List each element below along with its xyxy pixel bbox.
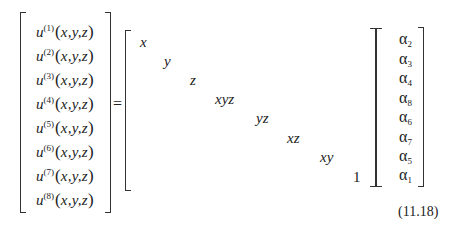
u-symbol: u	[36, 96, 44, 112]
matrix-entry-1: x	[140, 33, 147, 51]
superscript: (2)	[44, 47, 55, 57]
lhs-entry-6: u(6)(x,y,z)	[36, 138, 94, 162]
paren-close: )	[88, 70, 94, 89]
lhs-entry-7: u(7)(x,y,z)	[36, 162, 94, 186]
matrix-entry-3: z	[190, 71, 196, 89]
matrix-entry-5: yz	[256, 109, 269, 127]
matrix-entry-8: 1	[353, 168, 361, 186]
paren-close: )	[88, 118, 94, 137]
args: x,y,z	[61, 24, 88, 40]
lhs-entry-4: u(4)(x,y,z)	[36, 90, 94, 114]
superscript: (3)	[44, 71, 55, 81]
paren-close: )	[88, 22, 94, 41]
matrix-entry-7: xy	[320, 148, 333, 166]
paren-close: )	[88, 166, 94, 185]
superscript: (7)	[44, 167, 55, 177]
lhs-entry-5: u(5)(x,y,z)	[36, 114, 94, 138]
subscript: 8	[407, 98, 412, 108]
lhs-entry-8: u(8)(x,y,z)	[36, 186, 94, 210]
args: x,y,z	[61, 72, 88, 88]
superscript: (1)	[44, 23, 55, 33]
superscript: (5)	[44, 119, 55, 129]
superscript: (6)	[44, 143, 55, 153]
superscript: (4)	[44, 95, 55, 105]
u-symbol: u	[36, 72, 44, 88]
matrix-entry-2: y	[164, 52, 171, 70]
lhs-entry-1: u(1)(x,y,z)	[36, 18, 94, 42]
u-symbol: u	[36, 168, 44, 184]
paren-close: )	[88, 190, 94, 209]
args: x,y,z	[61, 144, 88, 160]
vector-left-bracket	[376, 28, 382, 187]
superscript: (8)	[44, 191, 55, 201]
args: x,y,z	[61, 168, 88, 184]
vector-right-bracket	[418, 27, 424, 187]
args: x,y,z	[61, 48, 88, 64]
paren-close: )	[88, 142, 94, 161]
matrix-entry-6: xz	[287, 129, 300, 147]
subscript: 1	[407, 175, 412, 185]
u-symbol: u	[36, 24, 44, 40]
u-symbol: u	[36, 48, 44, 64]
subscript: 2	[407, 39, 412, 49]
paren-close: )	[88, 46, 94, 65]
subscript: 4	[407, 78, 412, 88]
subscript: 3	[407, 59, 412, 69]
lhs-left-bracket	[20, 12, 26, 213]
matrix-entry-4: xyz	[215, 90, 234, 108]
u-symbol: u	[36, 192, 44, 208]
args: x,y,z	[61, 96, 88, 112]
u-symbol: u	[36, 144, 44, 160]
u-symbol: u	[36, 120, 44, 136]
lhs-entry-2: u(2)(x,y,z)	[36, 42, 94, 66]
alpha-entry-8: α1	[399, 166, 412, 189]
subscript: 5	[407, 156, 412, 166]
args: x,y,z	[61, 192, 88, 208]
matrix-left-bracket	[125, 30, 131, 191]
equals-sign: =	[113, 95, 122, 113]
paren-close: )	[88, 94, 94, 113]
lhs-entry-3: u(3)(x,y,z)	[36, 66, 94, 90]
args: x,y,z	[61, 120, 88, 136]
subscript: 6	[407, 117, 412, 127]
subscript: 7	[407, 137, 412, 147]
lhs-right-bracket	[105, 12, 111, 213]
equation-number: (11.18)	[398, 204, 438, 220]
